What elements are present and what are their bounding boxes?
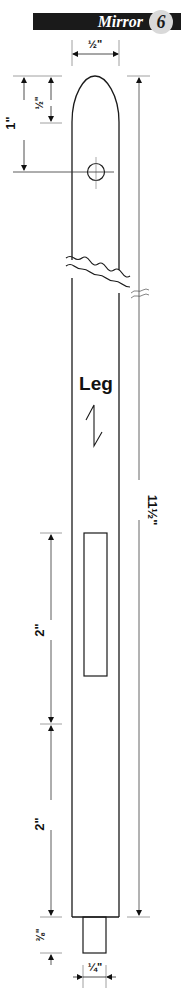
hole-from-top-label: 1" <box>3 116 18 129</box>
tenon <box>83 917 106 953</box>
mortise-length-label: 2" <box>32 623 47 636</box>
grain-direction-icon <box>86 405 102 446</box>
tenon-length-label: ⅜" <box>35 928 46 941</box>
top-width-label: ½" <box>88 38 102 50</box>
dim-mortise-length: 2" <box>32 533 62 724</box>
overall-length-label: 11½" <box>145 495 160 526</box>
leg-diagram: ½" 1" ½" 11½" <box>0 0 181 992</box>
round-length-label: ½" <box>34 96 45 109</box>
mortise-to-shoulder-label: 2" <box>32 817 47 830</box>
dim-mortise-to-shoulder: 2" <box>32 726 62 917</box>
dim-tenon-width: ¼" <box>73 961 116 988</box>
dim-round-length: ½" <box>34 78 62 123</box>
tenon-width-label: ¼" <box>88 961 102 973</box>
dim-overall-length: 11½" <box>127 76 160 917</box>
dim-top-width: ½" <box>72 38 119 66</box>
break-lines <box>66 257 149 299</box>
mortise <box>84 533 107 676</box>
part-name-label: Leg <box>79 373 113 394</box>
drill-hole <box>13 157 114 189</box>
dim-tenon-length: ⅜" <box>35 928 62 965</box>
leg-outline <box>72 76 119 917</box>
